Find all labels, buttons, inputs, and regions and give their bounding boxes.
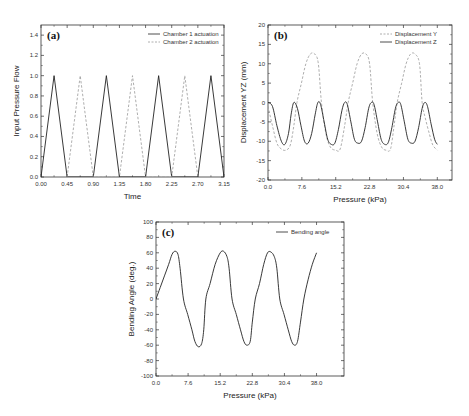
x-tick-label: 7.6	[184, 380, 193, 386]
legend-label: Bending angle	[291, 229, 330, 235]
y-tick-label: 10	[258, 61, 265, 67]
y-tick-label: 1.2	[30, 52, 39, 58]
y-tick-label: -20	[144, 311, 153, 317]
y-tick-label: -5	[260, 119, 266, 125]
y-tick-label: 0.0	[30, 174, 39, 180]
y-tick-label: 100	[143, 219, 154, 225]
legend-label: Chamber 1 actuation	[163, 31, 219, 37]
x-tick-label: 15.2	[214, 380, 226, 386]
x-tick-label: 2.25	[166, 181, 178, 187]
x-tick-label: 15.2	[330, 184, 342, 190]
y-tick-label: 0	[262, 100, 266, 106]
y-tick-label: -40	[144, 327, 153, 333]
series-line-displacement-y	[268, 53, 437, 151]
y-tick-label: -100	[141, 373, 154, 379]
legend-label: Chamber 2 actuation	[163, 39, 219, 45]
y-tick-label: 0.8	[30, 93, 39, 99]
y-tick-label: 40	[146, 265, 153, 271]
chart-c: 0.07.615.222.830.438.0-100-80-60-40-2002…	[127, 219, 344, 400]
y-tick-label: 15	[258, 41, 265, 47]
legend-label: Displacement Y	[395, 31, 437, 37]
x-tick-label: 22.8	[364, 184, 376, 190]
y-tick-label: -60	[144, 342, 153, 348]
x-tick-label: 0.90	[87, 181, 99, 187]
series-line-chamber-2-actuation	[67, 76, 198, 177]
y-axis-title: Displacement YZ (mm)	[239, 61, 248, 143]
y-tick-label: 0	[150, 296, 154, 302]
x-tick-label: 1.35	[114, 181, 126, 187]
y-tick-label: -20	[256, 177, 265, 183]
plot-frame	[41, 25, 224, 177]
x-tick-label: 0.0	[264, 184, 273, 190]
x-tick-label: 2.70	[192, 181, 204, 187]
y-tick-label: -15	[256, 158, 265, 164]
x-tick-label: 38.0	[311, 380, 323, 386]
x-tick-label: 0.0	[152, 380, 161, 386]
y-tick-label: 0.4	[30, 133, 39, 139]
x-tick-label: 1.80	[140, 181, 152, 187]
x-tick-label: 22.8	[246, 380, 258, 386]
panel-label: (c)	[162, 226, 175, 239]
y-tick-label: 80	[146, 234, 153, 240]
y-tick-label: 5	[262, 80, 266, 86]
chart-b: 0.07.615.222.830.438.0-20-15-10-50510152…	[239, 22, 452, 204]
figure: 0.000.450.901.351.802.252.703.150.00.20.…	[0, 0, 469, 416]
x-tick-label: 3.15	[218, 181, 230, 187]
plot-frame	[156, 222, 344, 376]
y-tick-label: 20	[258, 22, 265, 28]
y-tick-label: -10	[256, 138, 265, 144]
series-line-displacement-z	[268, 102, 437, 145]
x-tick-label: 38.0	[431, 184, 443, 190]
y-tick-label: 0.6	[30, 113, 39, 119]
x-tick-label: 0.45	[61, 181, 73, 187]
y-tick-label: 0.2	[30, 154, 39, 160]
legend-label: Displacement Z	[395, 39, 437, 45]
series-line-chamber-1-actuation	[41, 76, 224, 177]
y-tick-label: 20	[146, 281, 153, 287]
y-tick-label: 1.0	[30, 73, 39, 79]
panel-label: (a)	[47, 29, 60, 42]
x-axis-title: Time	[124, 192, 142, 201]
x-tick-label: 30.4	[279, 380, 291, 386]
y-tick-label: 1.4	[30, 32, 39, 38]
x-tick-label: 0.00	[35, 181, 47, 187]
y-axis-title: Bending Angle (deg.)	[127, 261, 136, 336]
x-axis-title: Pressure (kPa)	[223, 391, 277, 400]
y-tick-label: 60	[146, 250, 153, 256]
chart-a: 0.000.450.901.351.802.252.703.150.00.20.…	[12, 25, 230, 201]
panel-label: (b)	[274, 29, 288, 42]
x-axis-title: Pressure (kPa)	[333, 195, 387, 204]
x-tick-label: 30.4	[398, 184, 410, 190]
y-tick-label: -80	[144, 358, 153, 364]
y-axis-title: Input Pressure Flow	[12, 65, 21, 136]
series-line-bending-angle	[156, 251, 317, 347]
x-tick-label: 7.6	[298, 184, 307, 190]
